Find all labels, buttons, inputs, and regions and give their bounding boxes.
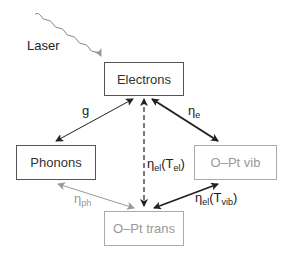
- edge-eta-e: [152, 99, 218, 141]
- label-g: g: [82, 103, 89, 118]
- node-opt-trans: O–Pt trans: [104, 211, 184, 246]
- label-eta-el-tel: ηel(Tel): [147, 156, 185, 173]
- node-electrons: Electrons: [104, 62, 184, 96]
- node-opt-vib: O–Pt vib: [194, 145, 277, 180]
- label-eta-el-tvib: ηel(Tvib): [195, 190, 237, 207]
- node-opt-trans-label: O–Pt trans: [113, 221, 175, 236]
- node-opt-vib-label: O–Pt vib: [211, 155, 261, 170]
- laser-label: Laser: [27, 38, 60, 53]
- node-phonons: Phonons: [16, 145, 96, 180]
- node-phonons-label: Phonons: [30, 155, 81, 170]
- label-eta-ph: ηph: [74, 191, 91, 208]
- node-electrons-label: Electrons: [117, 72, 171, 87]
- edge-eta-ph: [58, 184, 134, 208]
- edge-g: [56, 99, 133, 141]
- label-eta-e: ηe: [188, 103, 200, 120]
